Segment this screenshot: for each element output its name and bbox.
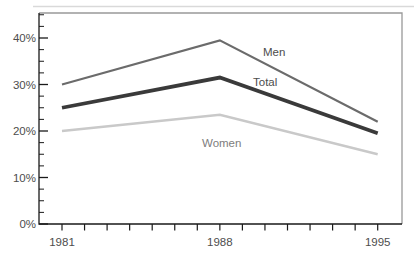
plot-frame-top-right	[39, 13, 402, 224]
y-axis-tick-label: 30%	[13, 79, 36, 91]
line-chart-panel: 0%10%20%30%40%198119881995MenTotalWomen	[0, 0, 414, 254]
line-chart: 0%10%20%30%40%198119881995MenTotalWomen	[0, 0, 414, 254]
plot-axes-left-bottom	[39, 13, 402, 224]
y-axis-tick-label: 40%	[13, 32, 36, 44]
series-line-men	[62, 40, 378, 121]
x-axis-tick-label: 1995	[365, 236, 391, 248]
x-axis-tick-label: 1981	[49, 236, 75, 248]
y-axis-tick-label: 10%	[13, 172, 36, 184]
series-label-women: Women	[202, 137, 241, 149]
series-label-men: Men	[263, 46, 285, 58]
series-label-total: Total	[253, 76, 277, 88]
x-axis-tick-label: 1988	[207, 236, 233, 248]
y-axis-tick-label: 20%	[13, 125, 36, 137]
y-axis-tick-label: 0%	[19, 218, 36, 230]
